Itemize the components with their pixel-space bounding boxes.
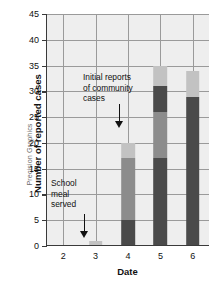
annotation-line: served	[51, 199, 77, 210]
y-axis-tick-label: 40	[29, 35, 39, 45]
annotation-line: meal	[51, 189, 77, 200]
down-arrow-icon	[115, 104, 124, 128]
bar-6[interactable]	[186, 71, 200, 246]
y-axis-tick-label: 5	[34, 215, 39, 225]
annotation-line: Initial reports	[83, 72, 133, 83]
x-axis-line	[47, 245, 209, 246]
y-axis-tick	[42, 143, 47, 144]
bar-segment-segment-4	[154, 66, 168, 87]
y-axis-tick	[42, 117, 47, 118]
bar-segment-segment-1	[186, 122, 200, 246]
arrow-shaft	[119, 104, 121, 121]
x-axis-title: Date	[46, 266, 209, 277]
bar-segment-segment-2	[154, 112, 168, 158]
y-axis-tick	[42, 40, 47, 41]
y-axis-tick	[42, 220, 47, 221]
y-axis-tick-label: 20	[29, 138, 39, 148]
x-axis-tick-label: 5	[158, 251, 163, 261]
chart-figure: Precision Graphics Number of reported ca…	[0, 0, 220, 287]
x-axis-tick-label: 4	[125, 251, 130, 261]
y-axis-tick-label: 0	[34, 241, 39, 251]
arrow-head	[115, 121, 123, 128]
y-axis-tick	[42, 246, 47, 247]
bar-segment-segment-4	[186, 71, 200, 97]
annotation-line: cases	[83, 93, 133, 104]
y-axis-tick	[42, 66, 47, 67]
x-gridline	[63, 14, 64, 246]
bar-4[interactable]	[121, 143, 135, 246]
y-axis-tick-label: 10	[29, 189, 39, 199]
y-axis-tick	[42, 194, 47, 195]
x-axis-tick-label: 6	[190, 251, 195, 261]
y-axis-tick	[42, 14, 47, 15]
y-axis-tick	[42, 91, 47, 92]
y-axis-tick-label: 25	[29, 112, 39, 122]
y-axis-tick	[42, 169, 47, 170]
bar-segment-segment-1	[121, 220, 135, 246]
annotation-initial-reports: Initial reports of community cases	[83, 72, 133, 104]
plot-area: 05101520253035404523456	[46, 14, 209, 246]
bar-5[interactable]	[154, 66, 168, 246]
annotation-school-meal: School meal served	[51, 178, 77, 210]
x-axis-tick-label: 2	[61, 251, 66, 261]
bar-segment-segment-1	[154, 158, 168, 246]
bar-segment-segment-4	[121, 143, 135, 158]
x-gridline	[96, 14, 97, 246]
y-axis-tick-label: 35	[29, 61, 39, 71]
annotation-line: School	[51, 178, 77, 189]
x-axis-tick-label: 3	[93, 251, 98, 261]
arrow-shaft	[84, 214, 86, 231]
bar-segment-segment-2	[121, 158, 135, 220]
y-axis-tick-label: 30	[29, 86, 39, 96]
plot-inner	[47, 14, 209, 246]
bar-segment-segment-3	[186, 97, 200, 123]
y-axis-tick-label: 45	[29, 9, 39, 19]
arrow-head	[80, 231, 88, 238]
down-arrow-icon	[80, 214, 89, 238]
bar-segment-segment-3	[154, 86, 168, 112]
annotation-line: of community	[83, 83, 133, 94]
y-axis-tick-label: 15	[29, 164, 39, 174]
